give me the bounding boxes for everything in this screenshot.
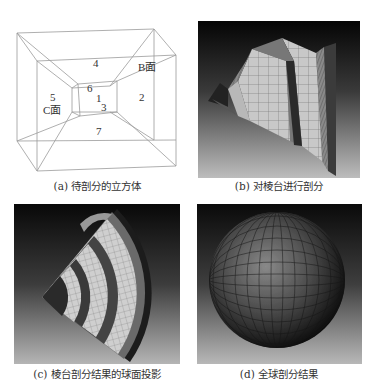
caption-b: (b) 对棱台进行剖分 xyxy=(193,178,365,193)
panel-c-spherical-projection xyxy=(14,204,180,364)
frustum-render xyxy=(198,21,360,178)
panel-d-global-sphere xyxy=(197,204,362,364)
face-label-5: 5 xyxy=(50,91,56,103)
cube-wireframe-diagram: 4 B面 5 C面 6 1 3 2 7 xyxy=(10,18,185,176)
face-label-c: C面 xyxy=(43,104,61,116)
panel-a-cube-wireframe: 4 B面 5 C面 6 1 3 2 7 xyxy=(10,18,185,176)
caption-a: (a) 待剖分的立方体 xyxy=(10,178,185,193)
face-label-b: B面 xyxy=(138,61,156,73)
face-label-2: 2 xyxy=(139,91,145,103)
face-label-4: 4 xyxy=(93,57,99,69)
caption-d: (d) 全球剖分结果 xyxy=(193,366,365,381)
caption-c: (c) 棱台剖分结果的球面投影 xyxy=(5,366,189,381)
face-label-6: 6 xyxy=(87,82,93,94)
spherical-projection-render xyxy=(14,204,180,364)
sphere-render xyxy=(197,204,362,364)
panel-b-frustum-subdivision xyxy=(198,21,360,178)
face-label-3: 3 xyxy=(101,101,107,113)
face-label-7: 7 xyxy=(96,125,102,137)
